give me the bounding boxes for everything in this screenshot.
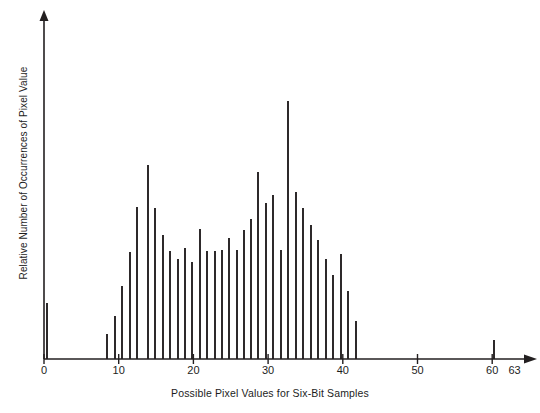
x-tick-label-10: 10 [99,364,139,376]
x-axis-arrowhead [524,355,537,364]
histogram-plot [0,0,540,413]
x-tick-label-63: 63 [495,364,535,376]
x-tick-label-0: 0 [24,364,64,376]
histogram-bars [47,101,494,359]
x-tick-label-20: 20 [173,364,213,376]
x-axis-label: Possible Pixel Values for Six-Bit Sample… [0,387,540,399]
x-tick-label-40: 40 [323,364,363,376]
y-axis-label: Relative Number of Occurrences of Pixel … [13,3,35,343]
histogram-figure: Relative Number of Occurrences of Pixel … [0,0,540,413]
x-tick-label-30: 30 [248,364,288,376]
x-tick-label-50: 50 [398,364,438,376]
y-axis-arrowhead [40,10,49,21]
